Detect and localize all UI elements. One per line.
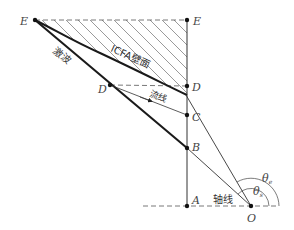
- label-d-left: D: [97, 83, 107, 96]
- label-shock: 激波: [51, 44, 74, 66]
- point-b: [185, 146, 189, 150]
- point-a: [185, 204, 189, 208]
- label-a: A: [191, 194, 200, 207]
- label-e-right: E: [192, 15, 201, 28]
- label-streamline: 流线: [148, 88, 169, 105]
- point-d-left: [108, 83, 112, 87]
- point-d-right: [185, 84, 189, 88]
- label-theta-e: θe: [262, 172, 273, 185]
- label-axis: 轴线: [213, 193, 233, 205]
- label-d-right: D: [191, 81, 201, 94]
- label-theta-s: θs: [253, 185, 263, 198]
- hatch-region: [30, 20, 274, 120]
- icfa-diagram: E E D D C B A O 激波 ICFA壁面 流线 轴线 θe θs: [0, 0, 294, 230]
- label-icfa-wall: ICFA壁面: [109, 42, 152, 70]
- label-b: B: [191, 141, 200, 154]
- point-c: [185, 113, 189, 117]
- label-o: O: [247, 212, 256, 225]
- point-e-right: [185, 18, 189, 22]
- label-c: C: [192, 111, 201, 124]
- label-e-left: E: [19, 15, 28, 28]
- point-o: [249, 204, 253, 208]
- d-dashed-line: [110, 85, 187, 86]
- point-e-left: [33, 18, 37, 22]
